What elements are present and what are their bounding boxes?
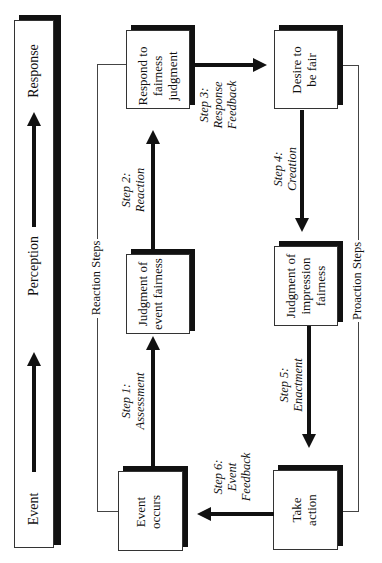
legend-event-label: Event [26,469,44,549]
proaction-steps-label: Proaction Steps [350,233,366,329]
desire-box-label: Desire to be fair [289,40,323,100]
step6-name-1: Event [225,446,239,508]
event-occurs-box-label: Event occurs [133,482,167,542]
step6-arrow-left-icon [197,507,274,521]
step5-label: Step 5: Enactment [277,349,307,421]
step6-name-2: Feedback [239,446,253,508]
step3-name-2: Feedback [225,74,239,136]
step4-name: Creation [285,133,299,205]
step3-number: Step 3: [197,74,211,136]
step6-number: Step 6: [211,446,225,508]
legend-response-label: Response [26,31,44,111]
step2-name: Reaction [133,154,147,226]
legend-arrow-up-icon [27,352,41,472]
step2-label: Step 2: Reaction [119,154,149,226]
legend-perception-label: Perception [26,221,44,311]
step5-number: Step 5: [277,349,291,421]
reaction-steps-label: Reaction Steps [89,233,105,323]
take-action-box-label: Take action [289,480,323,540]
step1-number: Step 1: [119,365,133,437]
legend-arrow-up-icon [27,112,41,227]
step3-arrow-right-icon [195,58,267,72]
step5-name: Enactment [291,349,305,421]
step1-name: Assessment [133,365,147,437]
step3-label: Step 3: Response Feedback [197,74,243,136]
step4-number: Step 4: [271,133,285,205]
step3-name-1: Response [211,74,225,136]
step6-label: Step 6: Event Feedback [211,446,257,508]
respond-box-label: Respond to fairness judgment [135,37,181,115]
step4-label: Step 4: Creation [271,133,301,205]
step1-label: Step 1: Assessment [119,365,149,437]
judgment-event-box-label: Judgment of event fairness [135,255,181,333]
judgment-impression-box-label: Judgment of impression fairness [283,245,329,327]
step2-number: Step 2: [119,154,133,226]
